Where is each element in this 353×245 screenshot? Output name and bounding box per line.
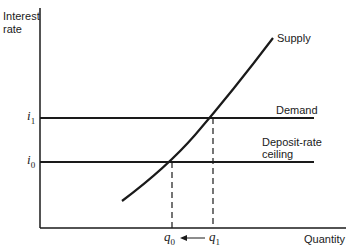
demand-label: Demand [276, 104, 318, 116]
ceiling-label-line2: ceiling [262, 148, 293, 160]
supply-curve [122, 38, 273, 201]
x-axis-label: Quantity [304, 233, 345, 245]
tick-i0-sub: 0 [31, 160, 36, 170]
tick-i0: i0 [27, 154, 35, 171]
tick-q0-sub: 0 [171, 237, 176, 245]
arrow-head-icon [180, 235, 187, 241]
tick-q1-sub: 1 [216, 237, 221, 245]
ceiling-label-line1: Deposit-rate [262, 136, 322, 148]
tick-i1-sub: 1 [31, 116, 36, 126]
supply-label: Supply [277, 32, 311, 44]
y-axis-label-line2: rate [3, 23, 22, 35]
tick-i1: i1 [27, 110, 35, 127]
tick-q0: q0 [164, 231, 175, 245]
tick-q1: q1 [209, 231, 220, 245]
y-axis-label-line1: Interest [3, 10, 40, 22]
